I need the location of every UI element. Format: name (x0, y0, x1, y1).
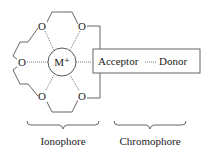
oxygen-atom: O (38, 90, 46, 102)
metal-ion-label: M⁺ (54, 56, 70, 68)
oxygen-atom: O (18, 56, 26, 68)
ionophore-label: Ionophore (40, 135, 85, 147)
chromophore-label: Chromophore (119, 135, 180, 147)
ionophore-chromophore-diagram: M⁺ O O O O O Acceptor Donor Ionophore Ch… (0, 0, 203, 157)
oxygen-atom: O (78, 90, 86, 102)
ionophore-brace (27, 121, 99, 129)
oxygen-atom: O (78, 20, 86, 32)
donor-label: Donor (159, 55, 187, 67)
chromophore-brace (114, 121, 186, 129)
acceptor-label: Acceptor (98, 55, 139, 67)
oxygen-atom: O (38, 20, 46, 32)
